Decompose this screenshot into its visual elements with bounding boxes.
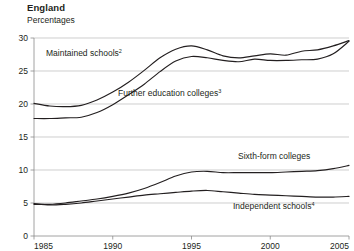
y-tickmarks-group [31,38,35,236]
annotation-text: Independent schools [233,201,311,211]
gridlines-group [34,38,349,203]
x-tick-label-1990: 1990 [103,241,122,251]
series-annotation-independent-schools: Independent schools4 [233,201,315,211]
y-tick-label-30: 30 [19,33,29,43]
y-axis-tick-labels: 051015202530 [19,33,29,241]
y-tick-label-25: 25 [19,66,29,76]
x-tick-label-1995: 1995 [182,241,201,251]
y-tick-label-10: 10 [19,165,29,175]
series-annotation-maintained-schools: Maintained schools2 [46,48,122,58]
annotation-footnote-marker: 4 [311,201,314,207]
chart-container: England Percentages 051015202530 1985199… [0,0,354,251]
annotation-text: Further education colleges [118,88,218,98]
y-tick-label-15: 15 [19,132,29,142]
annotation-footnote-marker: 2 [119,48,122,54]
line-chart-plot: 051015202530 19851990199520002005 Mainta… [0,0,354,251]
y-tick-label-20: 20 [19,99,29,109]
x-axis-tick-labels: 19851990199520002005 [34,241,349,251]
series-annotation-sixth-form-colleges: Sixth-form colleges [238,151,310,161]
series-annotations-group: Maintained schools2Further education col… [46,48,315,211]
chart-subtitle: Percentages [27,15,75,25]
annotation-footnote-marker: 3 [218,88,221,94]
annotation-text: Maintained schools [46,48,119,58]
page-title: England [27,2,65,13]
series-line-sixth-form-colleges [34,165,349,204]
annotation-text: Sixth-form colleges [238,151,310,161]
series-annotation-further-education-colleges: Further education colleges3 [118,88,221,98]
x-tick-label-1985: 1985 [34,241,53,251]
x-tick-label-2005: 2005 [330,241,349,251]
y-tick-label-5: 5 [23,198,28,208]
y-tick-label-0: 0 [23,231,28,241]
x-tick-label-2000: 2000 [261,241,280,251]
x-axis-group [34,236,349,240]
data-series-group [34,41,349,205]
